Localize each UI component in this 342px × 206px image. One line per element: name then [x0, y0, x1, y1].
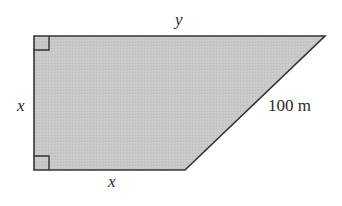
label-slanted-side: 100 m [268, 96, 311, 115]
diagram-canvas: y x x 100 m [0, 0, 342, 206]
label-top-side: y [173, 10, 183, 29]
label-bottom-side: x [107, 172, 116, 191]
trapezoid-diagram: y x x 100 m [0, 0, 342, 206]
label-left-side: x [16, 96, 25, 115]
